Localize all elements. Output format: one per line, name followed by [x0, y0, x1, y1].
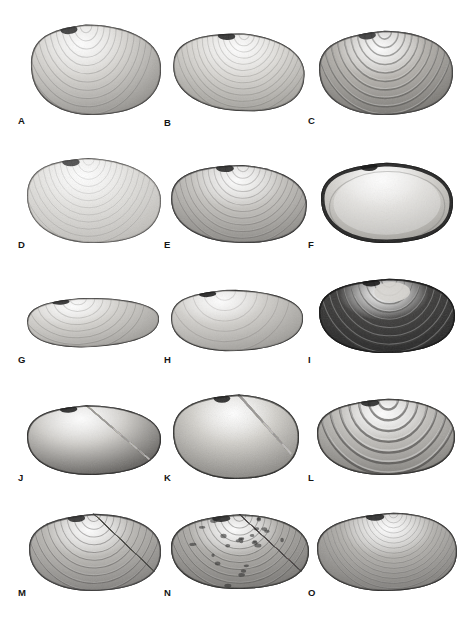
- shell-photo-h: [168, 279, 305, 356]
- panel-label-h: H: [164, 355, 171, 365]
- specimen-panel-c: [318, 24, 454, 116]
- specimen-panel-f: [320, 156, 454, 244]
- shell-photo-o: [315, 505, 458, 593]
- figure-plate: ABCDEFGHIJKLMNO: [0, 0, 468, 625]
- specimen-panel-o: [316, 506, 458, 592]
- shell-photo-a: [28, 15, 165, 120]
- specimen-panel-n: [170, 508, 310, 590]
- panel-label-g: G: [18, 355, 26, 365]
- shell-photo-m: [27, 506, 164, 595]
- shell-photo-k: [172, 390, 300, 480]
- panel-label-e: E: [164, 240, 171, 250]
- shell-photo-g: [24, 285, 162, 352]
- specimen-panel-i: [318, 272, 456, 354]
- specimen-panel-k: [172, 390, 300, 480]
- specimen-panel-g: [26, 290, 160, 348]
- shell-photo-c: [316, 22, 455, 119]
- shell-photo-f: [319, 155, 455, 245]
- shell-photo-e: [169, 156, 310, 247]
- panel-label-m: M: [18, 588, 26, 598]
- panel-label-n: N: [164, 588, 171, 598]
- panel-label-j: J: [18, 473, 23, 483]
- specimen-panel-m: [28, 508, 162, 592]
- panel-label-o: O: [308, 588, 316, 598]
- panel-label-k: K: [164, 473, 171, 483]
- specimen-panel-h: [170, 282, 304, 352]
- shell-photo-n: [169, 507, 310, 591]
- panel-label-i: I: [308, 355, 311, 365]
- specimen-panel-b: [172, 26, 306, 112]
- shell-photo-b: [169, 21, 309, 116]
- specimen-panel-j: [26, 398, 162, 476]
- specimen-panel-d: [26, 152, 162, 244]
- panel-label-f: F: [308, 240, 314, 250]
- specimen-panel-a: [30, 18, 162, 116]
- panel-label-a: A: [18, 116, 25, 126]
- shell-photo-l: [315, 391, 456, 477]
- panel-label-c: C: [308, 116, 315, 126]
- panel-label-b: B: [164, 118, 171, 128]
- shell-photo-i: [317, 271, 456, 355]
- shell-photo-j: [25, 396, 164, 479]
- shell-photo-d: [26, 152, 162, 244]
- specimen-panel-l: [316, 392, 456, 476]
- panel-label-l: L: [308, 473, 314, 483]
- specimen-panel-e: [170, 158, 308, 244]
- panel-label-d: D: [18, 240, 25, 250]
